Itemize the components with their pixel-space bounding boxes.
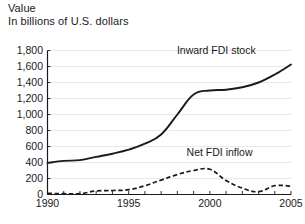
x-tick-label: 2000	[198, 197, 222, 209]
x-axis-tick-labels: 1990199520002005	[36, 197, 303, 209]
y-tick-label: 1,400	[17, 76, 43, 88]
series-annotations: Inward FDI stockNet FDI inflow	[177, 44, 257, 158]
y-tick-label: 1,200	[17, 92, 43, 104]
y-axis-tick-labels: 02004006008001,0001,2001,4001,6001,800	[17, 44, 43, 200]
y-tick-label: 400	[25, 156, 43, 168]
y-tick-label: 800	[25, 124, 43, 136]
series-label: Net FDI inflow	[187, 146, 253, 158]
x-tick-label: 1995	[117, 197, 141, 209]
y-tick-label: 600	[25, 140, 43, 152]
line-chart-plot: 02004006008001,0001,2001,4001,6001,800 1…	[0, 0, 305, 224]
x-tick-label: 2005	[279, 197, 303, 209]
series-net-fdi-inflow-line	[48, 168, 292, 193]
x-tick-label: 1990	[36, 197, 60, 209]
y-tick-label: 1,600	[17, 60, 43, 72]
series-inward-fdi-stock-line	[48, 65, 292, 163]
y-tick-label: 200	[25, 172, 43, 184]
y-tick-label: 1,000	[17, 108, 43, 120]
chart-figure: Value In billions of U.S. dollars 020040…	[0, 0, 305, 224]
series-label: Inward FDI stock	[177, 44, 257, 56]
y-tick-label: 1,800	[17, 44, 43, 56]
